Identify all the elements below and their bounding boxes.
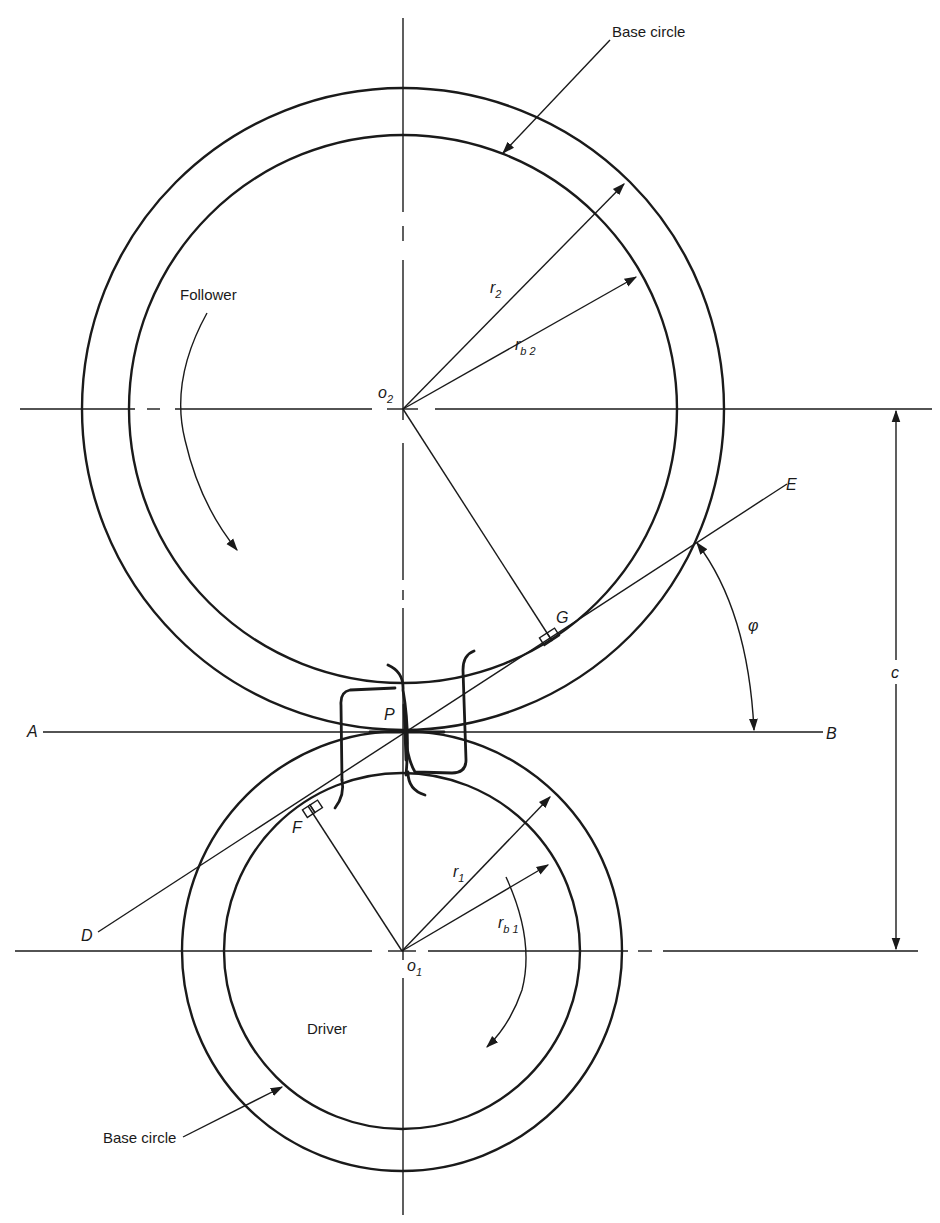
base-circle-bottom-label: Base circle [103, 1129, 176, 1146]
pressure-angle-arc [697, 543, 754, 730]
o1-label: o1 [407, 957, 422, 978]
point-g-label: G [556, 609, 568, 626]
point-f-label: F [292, 819, 303, 836]
r2-label: r2 [490, 279, 501, 300]
gear-diagram: Base circle Base circle Follower Driver … [0, 0, 940, 1223]
point-e-label: E [786, 476, 797, 493]
r1-label: r1 [453, 863, 464, 884]
r1-arrow [402, 797, 550, 951]
line-of-action-de [98, 484, 787, 932]
r2-arrow [403, 184, 624, 409]
o2-to-g-radius [403, 409, 547, 633]
center-distance-label: c [891, 664, 899, 681]
follower-label: Follower [180, 286, 237, 303]
o2-label: o2 [378, 384, 393, 405]
rb1-arrow [402, 865, 548, 951]
point-a-label: A [26, 723, 38, 740]
follower-rotation-arrow [181, 313, 237, 550]
gear-teeth-contact [335, 651, 474, 808]
base-circle-bottom-leader [183, 1087, 282, 1137]
o1-to-f-radius [308, 806, 402, 951]
driver-label: Driver [307, 1020, 347, 1037]
point-d-label: D [81, 927, 93, 944]
right-angle-mark-g [539, 628, 559, 645]
driver-rotation-arrow [487, 877, 526, 1047]
base-circle-top-label: Base circle [612, 23, 685, 40]
rb1-label: rb 1 [498, 914, 519, 935]
point-p-label: P [384, 706, 395, 723]
base-circle-top-leader [503, 40, 610, 153]
point-b-label: B [826, 725, 837, 742]
pressure-angle-label: φ [748, 617, 758, 634]
